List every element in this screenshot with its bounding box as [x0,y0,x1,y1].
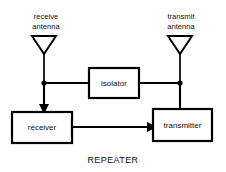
junction-transmit-bus-dot [177,80,182,85]
junction-receive-bus-dot [41,80,46,85]
receive-antenna-group: receive antenna [32,12,60,83]
transmit-antenna-label-line2: antenna [167,22,195,31]
diagram-caption: REPEATER [87,155,138,165]
receive-antenna-label-line2: antenna [32,22,60,31]
receiver-block[interactable]: receiver [12,112,72,143]
isolator-block[interactable]: isolator [89,68,139,98]
receive-antenna-icon [32,36,56,54]
repeater-block-diagram: receive antenna transmit antenna [0,0,226,172]
receive-antenna-label-line1: receive [34,12,58,21]
diagram-canvas: receive antenna transmit antenna [0,0,226,172]
transmit-antenna-label-line1: transmit [167,12,195,21]
transmit-antenna-group: transmit antenna [167,12,195,83]
transmitter-block[interactable]: transmitter [153,109,212,141]
isolator-label: isolator [101,79,127,88]
receiver-label: receiver [28,123,57,132]
transmit-antenna-icon [168,36,192,54]
transmitter-label: transmitter [164,121,202,130]
